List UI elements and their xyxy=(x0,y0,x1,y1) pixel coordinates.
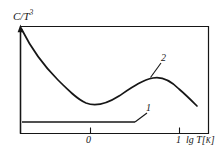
frame-rect xyxy=(21,27,209,134)
x-axis-label: lg T[K] xyxy=(186,135,215,145)
y-axis-label-exponent: 3 xyxy=(30,8,34,17)
x-tick-label-1: 1 xyxy=(176,135,181,145)
x-axis-label-text: lg T xyxy=(186,134,202,145)
y-axis-label: C/T3 xyxy=(13,9,33,22)
x-tick-label-0: 0 xyxy=(86,135,91,145)
leader-line-1 xyxy=(135,113,147,122)
leader-line-2 xyxy=(151,63,162,78)
plot-frame xyxy=(21,27,209,134)
plot-canvas xyxy=(0,0,224,155)
y-axis-label-text: C/T xyxy=(13,10,30,22)
series-2-curve xyxy=(22,29,198,106)
curve-2-callout-label: 2 xyxy=(161,53,166,63)
curve-1-callout-label: 1 xyxy=(146,103,151,113)
callout-leaders xyxy=(135,63,161,122)
figure-container: C/T3 lg T[K] 0 1 1 2 xyxy=(0,0,224,155)
x-axis-ticks xyxy=(91,128,180,134)
series-2-path xyxy=(22,29,198,106)
y-axis xyxy=(18,25,24,134)
x-axis-unit-close: ] xyxy=(211,134,215,145)
